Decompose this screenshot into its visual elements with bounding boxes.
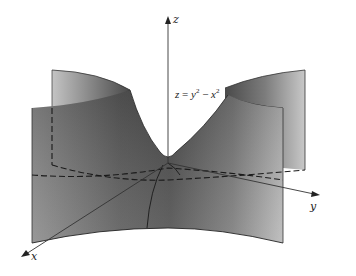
x-axis-arrowhead (21, 250, 30, 257)
y-axis-label: y (309, 200, 317, 213)
saddle-surface-figure: z y x z = y2 − x2 (0, 0, 356, 276)
x-axis-label: x (31, 250, 38, 263)
z-axis-arrowhead (165, 16, 171, 24)
y-axis-arrowhead (311, 191, 320, 197)
eq-minus: − (199, 88, 211, 100)
eq-sup2: 2 (216, 87, 220, 95)
surface-front (32, 90, 283, 243)
z-axis-label: z (172, 13, 179, 26)
eq-equals: = (179, 88, 191, 100)
equation-label: z = y2 − x2 (174, 87, 220, 100)
